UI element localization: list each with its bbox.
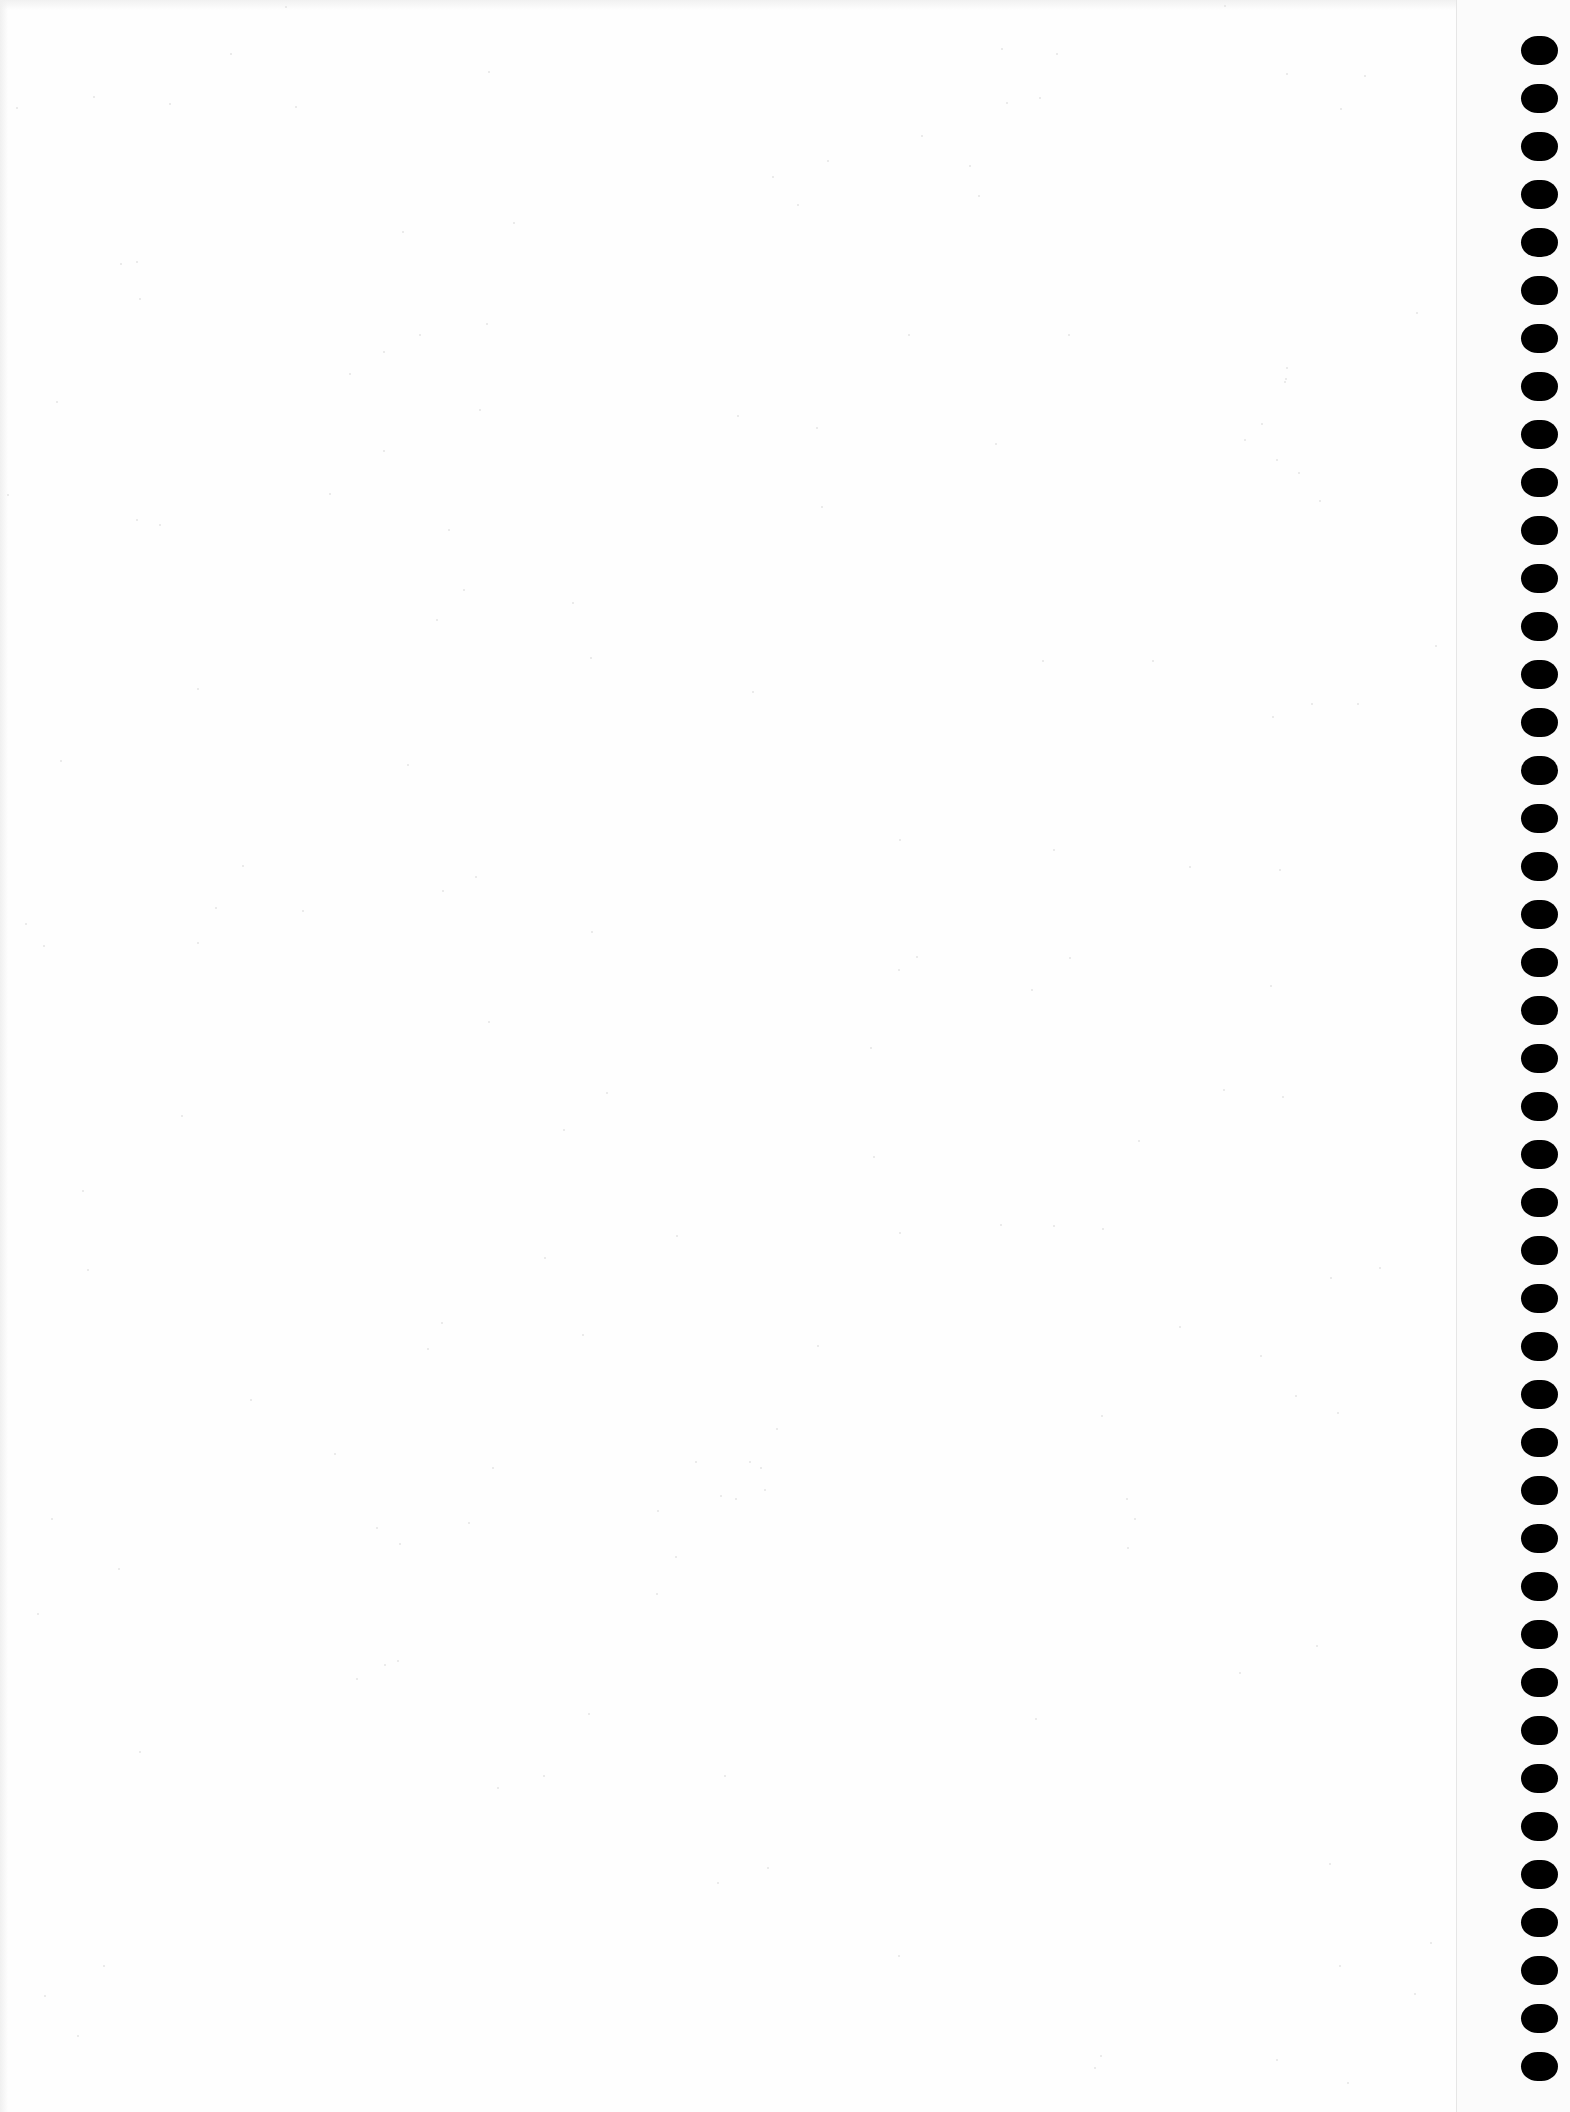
scan-speck [383, 450, 385, 452]
scan-speck [1260, 1355, 1262, 1357]
scan-speck [821, 506, 823, 508]
scan-speck [77, 2035, 79, 2037]
scan-speck [1319, 500, 1321, 502]
scan-speck [441, 1322, 443, 1324]
scan-speck [397, 1660, 399, 1662]
scan-speck [16, 107, 18, 109]
scan-speck [1414, 1993, 1416, 1995]
perforation-hole-icon [1521, 180, 1558, 209]
perforation-hole-icon [1521, 1716, 1558, 1745]
scan-speck [37, 1613, 39, 1615]
scan-speck [572, 602, 574, 604]
scan-speck [419, 334, 421, 336]
scan-speck [1316, 1645, 1318, 1647]
scan-speck [776, 1428, 778, 1430]
scan-speck [402, 231, 404, 233]
scan-speck [1261, 423, 1263, 425]
scan-speck [427, 1348, 429, 1350]
scan-speck [1094, 2067, 1096, 2069]
scan-speck [724, 1775, 726, 1777]
scan-speck [1189, 866, 1191, 868]
scan-speck [488, 1021, 490, 1023]
scan-speck [1340, 108, 1342, 110]
perforation-hole-icon [1521, 1380, 1558, 1409]
scan-speck [56, 401, 58, 403]
scan-speck [492, 1467, 494, 1469]
scan-speck [1224, 5, 1226, 7]
perforation-hole-icon [1521, 36, 1558, 65]
scan-speck [136, 261, 138, 263]
scan-speck [760, 1467, 762, 1469]
scan-speck [488, 71, 490, 73]
scan-speck [1138, 1140, 1140, 1142]
scan-speck [563, 1129, 565, 1131]
perforation-hole-icon [1521, 564, 1558, 593]
scan-speck [407, 764, 409, 766]
scan-speck [1286, 73, 1288, 75]
perforation-hole-icon [1521, 612, 1558, 641]
scan-speck [735, 1498, 737, 1500]
scan-speck [797, 204, 799, 206]
scan-speck [1329, 1863, 1331, 1865]
perforation-hole-icon [1521, 756, 1558, 785]
perforation-hole-icon [1521, 1668, 1558, 1697]
scan-speck [103, 1965, 105, 1967]
scan-speck [606, 1092, 608, 1094]
perforation-hole-icon [1521, 324, 1558, 353]
scan-speck [1430, 1942, 1432, 1944]
scan-speck [295, 106, 297, 108]
scan-top-edge-shadow [0, 0, 1570, 10]
scan-speck [1357, 703, 1359, 705]
scan-speck [1270, 985, 1272, 987]
scan-speck [468, 1522, 470, 1524]
scan-speck [139, 1751, 141, 1753]
scan-speck [139, 298, 141, 300]
scan-speck [1101, 1415, 1103, 1417]
scan-speck [383, 351, 385, 353]
scan-speck [827, 160, 829, 162]
scan-speck [717, 1882, 719, 1884]
scan-speck [870, 1047, 872, 1049]
scan-speck [93, 96, 95, 98]
scan-speck [588, 1713, 590, 1715]
perforation-hole-icon [1521, 1284, 1558, 1313]
scan-speck [772, 176, 774, 178]
scan-speck [1031, 989, 1033, 991]
perforation-hole-icon [1521, 276, 1558, 305]
perforation-hole-icon [1521, 1140, 1558, 1169]
scan-speck [816, 427, 818, 429]
perforation-hole-icon [1521, 468, 1558, 497]
scan-speck [978, 195, 980, 197]
scan-speck [737, 415, 739, 417]
perforation-hole-icon [1521, 1764, 1558, 1793]
scan-speck [1276, 2059, 1278, 2061]
perforation-hole-icon [1521, 132, 1558, 161]
scanned-page [0, 0, 1570, 2112]
scan-speck [1285, 378, 1287, 380]
scan-speck [1056, 53, 1058, 55]
perforation-hole-icon [1521, 1908, 1558, 1937]
perforation-hole-icon [1521, 372, 1558, 401]
perforation-hole-icon [1521, 1188, 1558, 1217]
scan-speck [475, 876, 477, 878]
scan-speck [197, 942, 199, 944]
perforation-hole-icon [1521, 900, 1558, 929]
scan-speck [1035, 1718, 1037, 1720]
scan-speck [1179, 1326, 1181, 1328]
scan-speck [399, 1543, 401, 1545]
scan-speck [1272, 716, 1274, 718]
scan-speck [334, 1453, 336, 1455]
scan-speck [436, 619, 438, 621]
scan-speck [1284, 381, 1286, 383]
scan-speck [242, 865, 244, 867]
scan-speck [1379, 1267, 1381, 1269]
perforation-hole-icon [1521, 1860, 1558, 1889]
scan-speck [1053, 1225, 1055, 1227]
scan-speck [1337, 1412, 1339, 1414]
scan-speck [250, 1399, 252, 1401]
scan-speck [1279, 869, 1281, 871]
scan-speck [1006, 102, 1008, 104]
perforation-hole-icon [1521, 228, 1558, 257]
scan-speck [656, 1593, 658, 1595]
scan-speck [1127, 1547, 1129, 1549]
